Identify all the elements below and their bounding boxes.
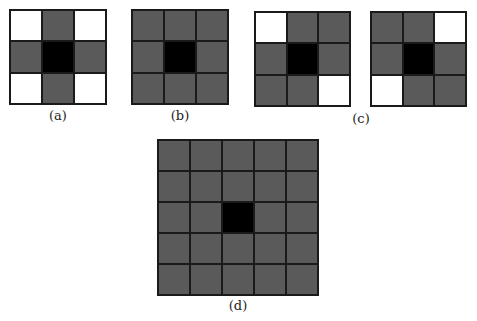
neighbor-cell	[372, 13, 402, 42]
neighbor-cell	[255, 141, 285, 170]
neighbor-cell	[197, 11, 227, 40]
neighbor-cell	[435, 76, 465, 105]
neighbor-cell	[191, 141, 221, 170]
label-d: (d)	[218, 298, 258, 313]
neighbor-cell	[404, 13, 434, 42]
grid-d	[157, 139, 319, 296]
neighbor-cell	[288, 13, 318, 42]
empty-cell	[11, 11, 41, 40]
neighbor-cell	[75, 42, 105, 71]
empty-cell	[75, 74, 105, 103]
neighbor-cell	[159, 172, 189, 201]
neighbor-cell	[191, 172, 221, 201]
empty-cell	[11, 74, 41, 103]
neighbor-cell	[165, 74, 195, 103]
neighbor-cell	[372, 44, 402, 73]
grid-b	[131, 9, 229, 105]
center-cell	[165, 42, 195, 71]
empty-cell	[75, 11, 105, 40]
neighbor-cell	[11, 42, 41, 71]
neighbor-cell	[191, 234, 221, 263]
neighbor-cell	[223, 172, 253, 201]
empty-cell	[372, 76, 402, 105]
neighbor-cell	[223, 234, 253, 263]
neighbor-cell	[255, 203, 285, 232]
neighbor-cell	[287, 172, 317, 201]
neighbor-cell	[435, 44, 465, 73]
center-cell	[288, 44, 318, 73]
grid-c1	[254, 11, 351, 107]
neighbor-cell	[255, 234, 285, 263]
neighbor-cell	[43, 11, 73, 40]
neighbor-cell	[159, 234, 189, 263]
neighbor-cell	[404, 76, 434, 105]
neighbor-cell	[133, 42, 163, 71]
neighbor-cell	[133, 74, 163, 103]
empty-cell	[256, 13, 286, 42]
neighbor-cell	[159, 203, 189, 232]
neighbor-cell	[287, 265, 317, 294]
neighbor-cell	[256, 44, 286, 73]
neighbor-cell	[287, 203, 317, 232]
empty-cell	[319, 76, 349, 105]
neighbor-cell	[133, 11, 163, 40]
empty-cell	[435, 13, 465, 42]
label-a: (a)	[38, 108, 78, 123]
center-cell	[43, 42, 73, 71]
center-cell	[404, 44, 434, 73]
neighbor-cell	[288, 76, 318, 105]
neighbor-cell	[255, 265, 285, 294]
neighbor-cell	[191, 203, 221, 232]
center-cell	[223, 203, 253, 232]
neighbor-cell	[256, 76, 286, 105]
neighbor-cell	[159, 265, 189, 294]
neighbor-cell	[319, 13, 349, 42]
neighbor-cell	[197, 42, 227, 71]
neighbor-cell	[287, 234, 317, 263]
neighbor-cell	[165, 11, 195, 40]
neighbor-cell	[43, 74, 73, 103]
label-b: (b)	[160, 108, 200, 123]
neighbor-cell	[287, 141, 317, 170]
label-c: (c)	[341, 111, 381, 126]
neighbor-cell	[197, 74, 227, 103]
neighbor-cell	[159, 141, 189, 170]
neighbor-cell	[223, 141, 253, 170]
grid-a	[9, 9, 107, 105]
neighbor-cell	[223, 265, 253, 294]
neighbor-cell	[319, 44, 349, 73]
neighbor-cell	[191, 265, 221, 294]
grid-c2	[370, 11, 467, 107]
neighbor-cell	[255, 172, 285, 201]
